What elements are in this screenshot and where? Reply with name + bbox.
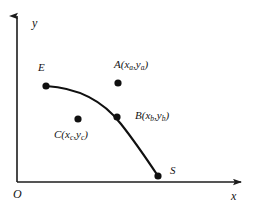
point-label-b-y: y: [157, 109, 162, 121]
point-dot-a: [114, 79, 121, 86]
point-dot-s: [154, 172, 161, 179]
x-axis-label: x: [231, 190, 236, 202]
point-label-b-x-sub: b: [150, 114, 154, 123]
point-label-c-y-sub: c: [81, 133, 84, 142]
figure-container: y x O E S A(xa,ya) B(xb,yb) C(xc,yc): [0, 0, 259, 217]
diagram-canvas: [0, 0, 259, 217]
point-label-c-close: ): [84, 128, 88, 140]
point-label-a: A(xa,ya): [114, 59, 148, 70]
point-label-c-x-sub: c: [70, 133, 73, 142]
origin-label: O: [13, 188, 22, 200]
point-label-a-name: A: [114, 58, 121, 70]
point-dot-e: [42, 82, 49, 89]
point-label-b-name: B: [135, 109, 142, 121]
point-label-s: S: [170, 165, 176, 176]
point-dot-c: [74, 115, 81, 122]
point-label-e: E: [38, 62, 45, 73]
point-dot-b: [113, 113, 120, 120]
point-label-b-close: ): [165, 109, 169, 121]
point-label-c: C(xc,yc): [54, 129, 88, 140]
point-label-a-y-sub: a: [141, 63, 145, 72]
point-label-a-x-sub: a: [129, 63, 133, 72]
point-label-b-y-sub: b: [162, 114, 166, 123]
point-label-b: B(xb,yb): [135, 110, 169, 121]
point-label-a-close: ): [144, 58, 148, 70]
point-label-a-y: y: [136, 58, 141, 70]
y-axis-label: y: [32, 17, 37, 29]
